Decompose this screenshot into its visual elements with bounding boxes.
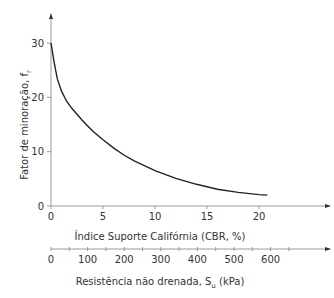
x2-tick-label: 300: [151, 254, 170, 265]
x2-tick-label: 500: [224, 254, 243, 265]
x-tick-label: 15: [201, 211, 214, 222]
x2-tick-label: 600: [261, 254, 280, 265]
y-axis-arrow-icon: [49, 13, 53, 19]
y-tick-label: 10: [31, 146, 44, 157]
x2-tick-label: 400: [188, 254, 207, 265]
data-line: [51, 43, 267, 195]
x2-tick-label: 0: [48, 254, 54, 265]
x2-tick-label: 200: [115, 254, 134, 265]
x-tick-label: 0: [48, 211, 54, 222]
x2-axis-arrow-icon: [325, 247, 331, 251]
y-tick-label: 0: [38, 201, 44, 212]
y-tick-label: 30: [31, 38, 44, 49]
y-tick-label: 20: [31, 92, 44, 103]
x-tick-label: 5: [100, 211, 106, 222]
x-tick-label: 10: [149, 211, 162, 222]
x-axis-arrow-icon: [325, 204, 331, 208]
x-axis-label: Índice Suporte Califórnia (CBR, %): [75, 230, 246, 242]
y-axis-label: Fator de minoração, fr: [19, 70, 33, 180]
axes: 0102030051015200100200300400500600: [31, 13, 331, 265]
x2-axis-label: Resistência não drenada, Su (kPa): [76, 276, 245, 290]
x-tick-label: 20: [253, 211, 266, 222]
chart: 0102030051015200100200300400500600 Fator…: [0, 0, 334, 298]
x2-tick-label: 100: [78, 254, 97, 265]
